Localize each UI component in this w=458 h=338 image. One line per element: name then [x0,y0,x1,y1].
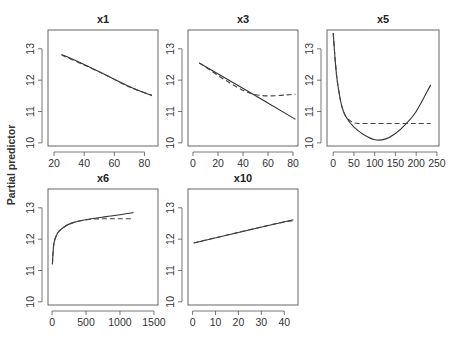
y-tick-label: 11 [164,106,176,117]
series-comparison-line [333,33,430,123]
panel-title: x10 [234,172,252,184]
x-tick-label: 50 [348,157,360,169]
x-axis: 050100150200250 [330,152,446,169]
x-tick-label: 1000 [108,316,132,328]
panel-x1: x12040608010111213 [24,13,158,169]
x-tick-label: 80 [139,157,151,169]
panel-x6: x605001000150010111213 [24,172,166,328]
plot-frame [48,189,158,305]
plot-frame [48,30,158,146]
x-tick-label: 30 [255,316,267,328]
y-tick-label: 10 [24,137,36,149]
x-tick-label: 80 [287,157,299,169]
y-axis: 10111213 [303,43,321,149]
series-comparison-line [62,55,152,95]
y-tick-label: 11 [303,106,315,117]
y-tick-label: 13 [164,43,176,55]
y-tick-label: 12 [164,233,176,245]
panel-title: x1 [97,13,109,25]
x-axis: 050010001500 [49,311,166,328]
x-tick-label: 0 [330,157,336,169]
y-axis: 10111213 [164,43,182,149]
y-tick-label: 11 [24,265,36,276]
y-tick-label: 10 [303,137,315,149]
x-tick-label: 40 [78,157,90,169]
y-tick-label: 11 [164,265,176,276]
panel-x5: x505010015020025010111213 [303,13,446,169]
x-tick-label: 0 [190,316,196,328]
y-tick-label: 11 [24,106,36,117]
panel-x3: x302040608010111213 [164,13,299,169]
x-tick-label: 0 [190,157,196,169]
x-tick-label: 10 [210,316,222,328]
x-tick-label: 20 [212,157,224,169]
y-tick-label: 10 [164,296,176,308]
plot-frame [327,30,439,146]
x-tick-label: 500 [77,316,95,328]
series-fitted-line [52,213,133,265]
x-axis: 010203040 [190,311,291,328]
y-tick-label: 12 [24,74,36,86]
panel-title: x3 [237,13,249,25]
partial-predictor-figure: Partial predictor x12040608010111213x302… [0,0,458,338]
plot-frame [188,189,298,305]
y-tick-label: 12 [24,233,36,245]
x-tick-label: 150 [387,157,405,169]
y-tick-label: 10 [164,137,176,149]
y-tick-label: 12 [164,74,176,86]
x-tick-label: 100 [366,157,384,169]
x-tick-label: 200 [407,157,425,169]
series-comparison-line [52,219,133,264]
y-axis: 10111213 [24,43,42,149]
series-fitted-line [199,63,295,119]
x-axis: 20406080 [48,152,150,169]
y-axis-label: Partial predictor [5,125,17,206]
series-fitted-line [333,33,430,140]
x-tick-label: 60 [108,157,120,169]
y-tick-label: 13 [164,202,176,214]
x-tick-label: 40 [278,316,290,328]
y-tick-label: 10 [24,296,36,308]
panel-x10: x1001020304010111213 [164,172,298,328]
x-tick-label: 20 [233,316,245,328]
panels: x12040608010111213x302040608010111213x50… [24,13,446,328]
y-tick-label: 13 [24,43,36,55]
y-tick-label: 13 [24,202,36,214]
x-tick-label: 40 [237,157,249,169]
x-tick-label: 0 [49,316,55,328]
y-axis: 10111213 [164,202,182,308]
x-tick-label: 20 [48,157,60,169]
panel-title: x5 [377,13,389,25]
y-tick-label: 12 [303,74,315,86]
y-tick-label: 13 [303,43,315,55]
x-tick-label: 250 [428,157,446,169]
panel-title: x6 [97,172,109,184]
x-tick-label: 60 [262,157,274,169]
x-tick-label: 1500 [142,316,166,328]
y-axis: 10111213 [24,202,42,308]
x-axis: 020406080 [190,152,299,169]
